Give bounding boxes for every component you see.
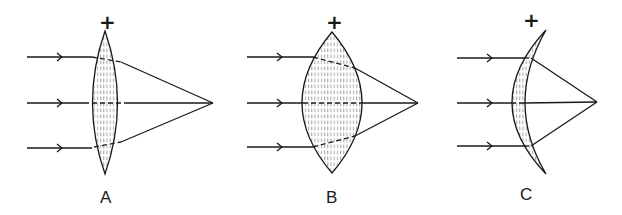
lens-c — [512, 30, 546, 174]
lens-c-label: C — [520, 185, 532, 204]
lens-c-ray-top-emergent — [531, 58, 597, 102]
lens-a-label: A — [100, 188, 112, 207]
lens-c-sign: + — [523, 8, 540, 32]
lens-b-ray-bot-emergent — [355, 103, 418, 136]
lens-a-group: + A — [27, 10, 213, 207]
lens-ray-diagram: + A + B + C — [0, 0, 622, 215]
lens-b-ray-top-emergent — [355, 68, 418, 103]
lens-a-ray-bot-emergent — [121, 103, 213, 142]
lens-c-group: + C — [457, 8, 597, 204]
lens-a-sign: + — [99, 10, 116, 34]
lens-b-sign: + — [326, 10, 343, 34]
lens-b-label: B — [326, 188, 337, 207]
lens-c-ray-mid-emergent — [524, 102, 597, 103]
lens-b-group: + B — [247, 10, 418, 207]
lens-c-ray-bot-emergent — [531, 102, 597, 146]
lens-a-ray-top-emergent — [121, 62, 213, 103]
